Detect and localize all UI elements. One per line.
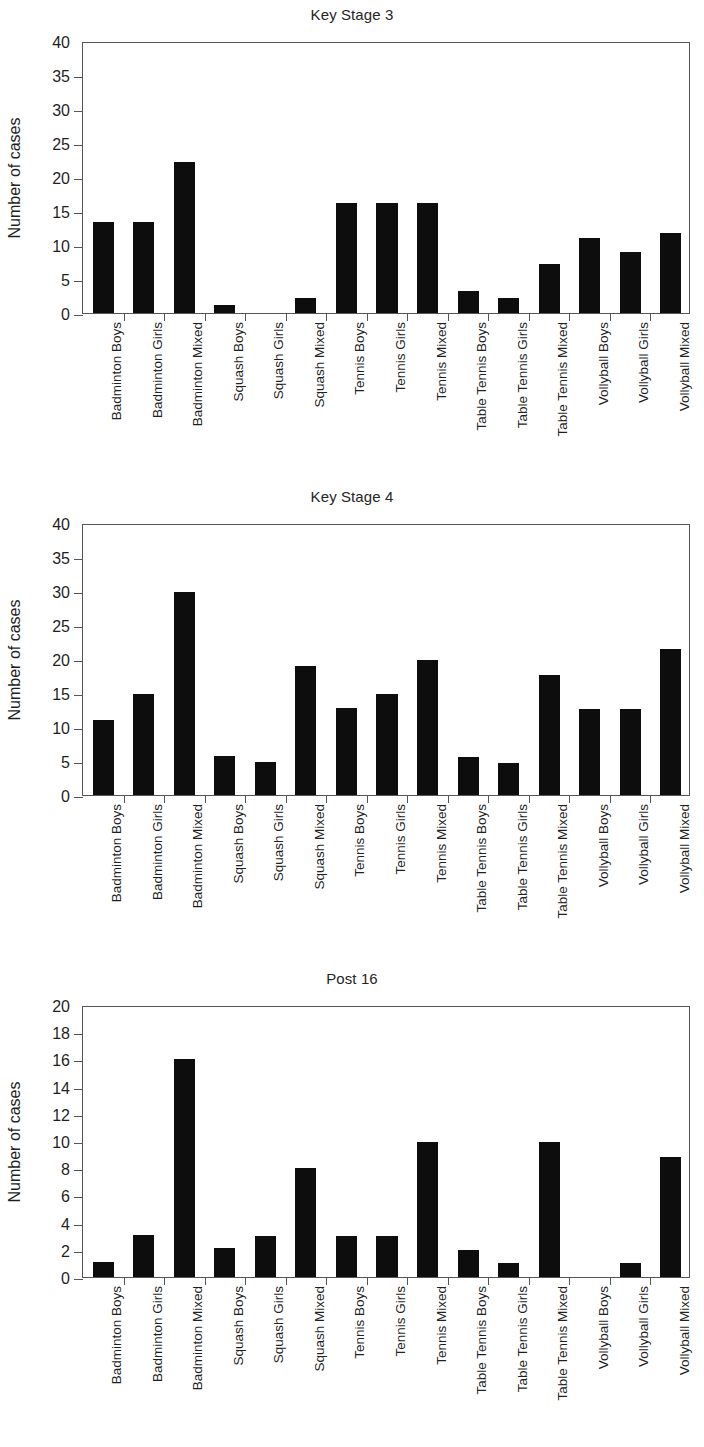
x-axis-tick-label: Table Tennis Mixed (555, 322, 571, 472)
y-axis-tick-label: 20 (52, 171, 70, 187)
x-axis-tick-label: Badminton Girls (150, 1286, 166, 1436)
x-axis-tick (164, 1277, 165, 1285)
bar (214, 1248, 235, 1277)
x-axis-tick-label: Vollyball Girls (636, 804, 652, 954)
x-axis-tick-label: Vollyball Boys (596, 804, 612, 954)
x-axis-tick-label: Vollyball Boys (596, 322, 612, 472)
y-axis-tick (74, 763, 83, 764)
bar (336, 1236, 357, 1277)
y-axis-tick (74, 1170, 83, 1171)
x-axis-tick-label: Badminton Girls (150, 322, 166, 472)
bar (214, 305, 235, 313)
bar (133, 222, 154, 313)
x-axis-tick (407, 795, 408, 803)
bar (295, 1168, 316, 1277)
x-axis-tick-label: Table Tennis Girls (515, 322, 531, 472)
bar (295, 298, 316, 313)
y-axis-tick (74, 1116, 83, 1117)
x-axis-tick (407, 1277, 408, 1285)
y-axis-tick-label: 35 (52, 551, 70, 567)
bar-series (83, 525, 689, 795)
y-axis-tick (74, 729, 83, 730)
bar (174, 162, 195, 313)
bar (376, 694, 397, 795)
y-axis-label: Number of cases (4, 42, 26, 314)
bar (579, 709, 600, 795)
chart-title: Key Stage 4 (0, 488, 704, 505)
y-axis-label: Number of cases (4, 524, 26, 796)
x-axis-tick-label: Table Tennis Girls (515, 1286, 531, 1436)
x-axis-tick (488, 313, 489, 321)
chart-panel-post-16: Post 16Number of cases02468101214161820B… (0, 964, 704, 1447)
x-axis-labels: Badminton BoysBadminton GirlsBadminton M… (82, 1286, 690, 1436)
bar (336, 203, 357, 313)
bar (620, 709, 641, 795)
x-axis-tick (124, 795, 125, 803)
x-axis-tick (124, 1277, 125, 1285)
x-axis-tick (488, 795, 489, 803)
y-axis-tick (74, 145, 83, 146)
bar-series (83, 43, 689, 313)
plot-area: 02468101214161820 (82, 1006, 690, 1278)
x-axis-tick-label: Badminton Mixed (190, 804, 206, 954)
bar (417, 203, 438, 313)
y-axis-tick (74, 1225, 83, 1226)
bar (295, 666, 316, 795)
y-axis-tick-label: 35 (52, 69, 70, 85)
x-axis-tick (367, 1277, 368, 1285)
y-axis-tick-label: 5 (61, 273, 70, 289)
y-axis-tick (74, 627, 83, 628)
bar (458, 1250, 479, 1277)
y-axis-tick (74, 179, 83, 180)
y-axis-tick-label: 2 (61, 1244, 70, 1260)
x-axis-tick (569, 1277, 570, 1285)
x-axis-tick-label: Tennis Mixed (434, 804, 450, 954)
bar (539, 675, 560, 795)
bar (498, 1263, 519, 1277)
x-axis-tick (488, 1277, 489, 1285)
bar (458, 291, 479, 313)
y-axis-tick-label: 18 (52, 1026, 70, 1042)
bar (174, 592, 195, 795)
y-axis-tick-label: 25 (52, 619, 70, 635)
chart-panel-key-stage-4: Key Stage 4Number of cases05101520253035… (0, 482, 704, 964)
y-axis-tick (74, 1061, 83, 1062)
x-axis-tick-label: Squash Boys (231, 804, 247, 954)
x-axis-tick (286, 1277, 287, 1285)
y-axis-tick (74, 1143, 83, 1144)
y-axis-tick (74, 1089, 83, 1090)
x-axis-tick (326, 1277, 327, 1285)
chart-title: Post 16 (0, 970, 704, 987)
plot-area: 0510152025303540 (82, 524, 690, 796)
bar (620, 1263, 641, 1277)
x-axis-tick (529, 1277, 530, 1285)
bar (133, 694, 154, 795)
bar (376, 203, 397, 313)
x-axis-tick-label: Table Tennis Boys (474, 804, 490, 954)
x-axis-tick (164, 313, 165, 321)
bar (498, 298, 519, 313)
x-axis-tick (610, 1277, 611, 1285)
x-axis-tick (326, 313, 327, 321)
x-axis-tick (650, 313, 651, 321)
x-axis-tick (205, 1277, 206, 1285)
x-axis-tick-label: Badminton Mixed (190, 1286, 206, 1436)
bar (539, 1142, 560, 1277)
x-axis-tick-label: Squash Girls (271, 322, 287, 472)
chart-panel-key-stage-3: Key Stage 3Number of cases05101520253035… (0, 0, 704, 482)
x-axis-tick-label: Vollyball Girls (636, 1286, 652, 1436)
x-axis-tick-label: Tennis Mixed (434, 1286, 450, 1436)
x-axis-tick-label: Table Tennis Girls (515, 804, 531, 954)
x-axis-tick (367, 313, 368, 321)
y-axis-tick-label: 40 (52, 35, 70, 51)
bar (93, 1262, 114, 1277)
y-axis-label-text: Number of cases (6, 1082, 24, 1203)
x-axis-tick-label: Table Tennis Boys (474, 1286, 490, 1436)
bar (255, 1236, 276, 1277)
y-axis-tick-label: 0 (61, 1271, 70, 1287)
bar (417, 1142, 438, 1277)
x-axis-tick (650, 795, 651, 803)
x-axis-tick-label: Vollyball Mixed (677, 322, 693, 472)
bar (579, 238, 600, 313)
bar (660, 233, 681, 313)
